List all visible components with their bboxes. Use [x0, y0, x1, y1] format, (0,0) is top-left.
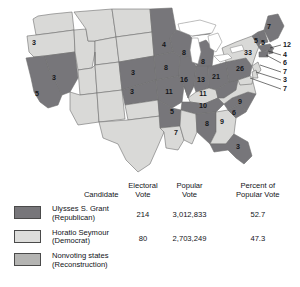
electoral-votes-ma: 12 [283, 41, 291, 49]
table-row: Ulysses S. Grant(Republican)2143,012,833… [0, 199, 300, 222]
results-table-grid: Candidate Electoral Vote Popular Vote Pe… [0, 180, 300, 269]
electoral-votes-md: 7 [283, 85, 287, 93]
state-ct [259, 51, 268, 57]
state-co [95, 62, 122, 93]
electoral-vote-cell: 80 [123, 223, 164, 246]
electoral-votes-vt: 5 [254, 37, 258, 45]
callout-vote-labels: 1246737 [283, 41, 291, 93]
electoral-votes-ks: 3 [130, 88, 134, 96]
legend-swatch-nonvote [14, 253, 41, 266]
electoral-votes-la: 7 [174, 129, 178, 137]
electoral-votes-ct: 6 [283, 59, 287, 67]
candidate-name-line2: (Republican) [52, 214, 123, 223]
electoral-votes-nj: 7 [283, 68, 287, 76]
popular-vote-cell: 3,012,833 [163, 199, 215, 222]
electoral-votes-fl: 3 [236, 143, 240, 151]
electoral-votes-me: 7 [267, 23, 271, 31]
candidate-name-cell: Ulysses S. Grant(Republican) [52, 199, 123, 222]
header-spacer [41, 180, 52, 199]
legend-swatch-cell [0, 199, 41, 222]
electoral-votes-ca: 5 [35, 90, 39, 98]
header-percent-popular-vote: Percent of Popular Vote [216, 180, 300, 199]
electoral-votes-ny: 33 [244, 49, 252, 57]
leader-line-nj [260, 65, 281, 72]
electoral-votes-ne: 3 [131, 69, 135, 77]
candidate-name-cell: Horatio Seymour(Democrat) [52, 223, 123, 246]
candidate-name-line2: (Democrat) [52, 237, 123, 246]
electoral-votes-il: 16 [180, 76, 188, 84]
header-candidate: Candidate [52, 180, 123, 199]
leader-line-ct [266, 55, 281, 63]
popular-vote-cell [163, 246, 215, 269]
percent-popular-vote-cell: 47.3 [216, 223, 300, 246]
electoral-vote-cell [123, 246, 164, 269]
table-row: Horatio Seymour(Democrat)802,703,24947.3 [0, 223, 300, 246]
electoral-votes-in: 13 [197, 76, 205, 84]
header-popular-vote: Popular Vote [163, 180, 215, 199]
legend-swatch-seymour [14, 230, 41, 243]
electoral-votes-tn: 10 [199, 102, 207, 110]
state-az [70, 92, 99, 125]
electoral-votes-nv: 3 [52, 74, 56, 82]
electoral-votes-oh: 21 [212, 73, 220, 81]
leader-line-de [256, 72, 281, 80]
electoral-votes-wi: 8 [182, 49, 186, 57]
electoral-votes-mi: 8 [201, 58, 205, 66]
electoral-votes-mo: 11 [165, 88, 173, 96]
electoral-votes-nc: 9 [238, 98, 242, 106]
legend-swatch-cell [0, 223, 41, 246]
electoral-votes-or: 3 [32, 39, 36, 47]
electoral-votes-de: 3 [283, 76, 287, 84]
header-percent-line2: Popular Vote [216, 191, 300, 200]
electoral-votes-pa: 26 [236, 65, 244, 73]
popular-vote-cell: 2,703,249 [163, 223, 215, 246]
table-header-row: Candidate Electoral Vote Popular Vote Pe… [0, 180, 300, 199]
row-spacer [41, 223, 52, 246]
row-spacer [41, 246, 52, 269]
election-map-figure: 33548883316132111111057896932633557 1246… [0, 0, 300, 287]
state-wy [95, 37, 119, 65]
table-body: Ulysses S. Grant(Republican)2143,012,833… [0, 199, 300, 269]
state-la [160, 126, 184, 150]
header-electoral-vote: Electoral Vote [123, 180, 164, 199]
electoral-votes-ar: 5 [170, 108, 174, 116]
header-electoral-vote-line2: Vote [123, 191, 164, 200]
electoral-votes-nh: 5 [261, 39, 265, 47]
electoral-votes-ia: 8 [164, 64, 168, 72]
header-swatch-spacer [0, 180, 41, 199]
electoral-votes-ri: 4 [283, 51, 287, 59]
row-spacer [41, 199, 52, 222]
electoral-vote-cell: 214 [123, 199, 164, 222]
electoral-votes-al: 8 [205, 120, 209, 128]
candidate-name-cell: Nonvoting states(Reconstruction) [52, 246, 123, 269]
electoral-votes-mn: 4 [162, 41, 166, 49]
results-table: Candidate Electoral Vote Popular Vote Pe… [0, 180, 300, 287]
map-svg: 33548883316132111111057896932633557 1246… [0, 0, 300, 180]
percent-popular-vote-cell [216, 246, 300, 269]
electoral-votes-sc: 6 [232, 109, 236, 117]
us-electoral-map: 33548883316132111111057896932633557 1246… [0, 0, 300, 180]
electoral-votes-ky: 11 [199, 90, 207, 98]
leader-line-md [250, 78, 281, 89]
table-row: Nonvoting states(Reconstruction) [0, 246, 300, 269]
electoral-votes-ga: 9 [220, 118, 224, 126]
header-popular-vote-line2: Vote [163, 191, 215, 200]
state-tx [99, 116, 164, 172]
state-shapes [26, 8, 284, 172]
legend-swatch-grant [14, 206, 41, 219]
state-nm [97, 90, 125, 122]
legend-swatch-cell [0, 246, 41, 269]
candidate-name-line2: (Reconstruction) [52, 261, 123, 270]
percent-popular-vote-cell: 52.7 [216, 199, 300, 222]
